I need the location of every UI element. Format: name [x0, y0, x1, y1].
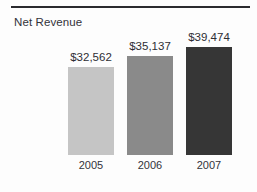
bar-value-label-2005: $32,562: [59, 51, 123, 64]
bar-rect-2007: [186, 47, 232, 155]
plot-area: $32,562 2005 $35,137 2006 $39,474 2007: [0, 0, 257, 192]
bar-rect-2006: [127, 56, 173, 155]
bar-category-label-2005: 2005: [59, 159, 123, 172]
bar-value-label-2007: $39,474: [177, 31, 241, 44]
bar-category-label-2007: 2007: [177, 159, 241, 172]
net-revenue-bar-chart: Net Revenue $32,562 2005 $35,137 2006 $3…: [0, 0, 257, 192]
bar-category-label-2006: 2006: [118, 159, 182, 172]
bar-rect-2005: [68, 67, 114, 155]
bar-value-label-2006: $35,137: [118, 40, 182, 53]
